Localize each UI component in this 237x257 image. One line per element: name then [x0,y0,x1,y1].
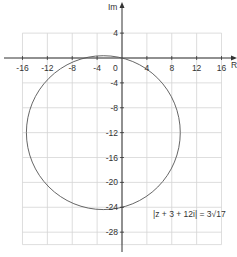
x-tick-label: -16 [16,63,29,73]
y-tick-label: -8 [110,103,118,113]
origin-label: 0 [113,63,118,73]
x-tick-label: -8 [68,63,76,73]
y-tick-label: -16 [106,153,119,163]
y-tick-label: -28 [106,227,119,237]
y-tick-label: -20 [106,177,119,187]
equation-annotation: |z + 3 + 12i| = 3√17 [153,209,226,219]
y-tick-label: -12 [106,128,119,138]
y-tick-label: -4 [110,78,118,88]
x-tick-label: -12 [41,63,54,73]
complex-plane-chart: -16-12-8-44812164-4-8-12-16-20-24-28 Re … [0,0,237,257]
x-tick-label: -4 [93,63,101,73]
x-tick-label: 8 [169,63,174,73]
y-tick-label: -24 [106,202,119,212]
y-tick-label: 4 [113,28,118,38]
x-tick-label: 4 [145,63,150,73]
x-tick-label: 12 [192,63,202,73]
x-tick-label: 16 [217,63,227,73]
y-axis-label: Im [108,2,117,12]
x-axis-label: Re [231,60,237,70]
y-axis-arrow-icon [120,2,125,8]
